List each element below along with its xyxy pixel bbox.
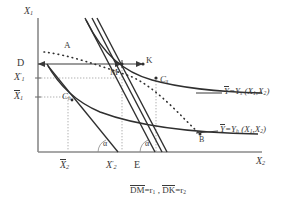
point-label-K: K: [146, 56, 153, 65]
point-label-Cs: Cs: [160, 75, 168, 85]
x-tick-label-x-prime-2: X'2: [106, 160, 117, 171]
isocost-line-3: [97, 18, 167, 152]
angle-label-right: α: [145, 140, 149, 148]
point-label-A: A: [64, 41, 71, 50]
point-label-M: M: [110, 68, 118, 77]
isocost-line-4: [48, 66, 118, 152]
point-label-B: B: [199, 136, 204, 144]
x-tick-label-x-bar-2: X2: [60, 160, 69, 171]
y-tick-label-x-bar-1: X1: [14, 91, 23, 102]
figure-canvas: X1 X2 D X'1 X1 X2 X'2 E A M K Cs Ch B α: [0, 0, 300, 210]
point-marker-K: [141, 62, 144, 65]
y-tick-label-D: D: [17, 58, 24, 68]
curve-label-isoquant-h: Y=Yh (X1,X2): [220, 125, 266, 135]
angle-label-left: α: [103, 140, 107, 148]
point-marker-Cs: [154, 76, 157, 79]
point-marker-Ch: [71, 99, 74, 102]
y-axis-title: X1: [24, 6, 33, 17]
y-tick-label-x-prime-1: X'1: [14, 72, 25, 83]
segment-legend: DM=r1 , DK=r2: [130, 186, 186, 196]
arrowhead-D: [38, 61, 45, 67]
point-marker-M: [121, 63, 124, 66]
point-label-Ch: Ch: [62, 92, 71, 102]
isocost-line-2: [92, 18, 162, 152]
curve-label-isoquant-s: Y=Ys (X1,X2): [224, 87, 269, 97]
diagram-vector-layer: [0, 0, 300, 210]
x-axis-title: X2: [256, 156, 265, 167]
x-tick-label-E: E: [134, 160, 140, 170]
